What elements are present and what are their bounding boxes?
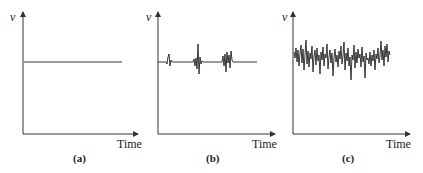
panel-b (158, 12, 275, 134)
x-axis-label-c: Time (386, 137, 411, 152)
y-axis-label-b: v (146, 10, 151, 25)
x-axis-label-a: Time (117, 137, 142, 152)
intermittent-trace (158, 44, 257, 74)
panel-a (23, 12, 138, 134)
panel-c (293, 12, 410, 134)
y-axis-label-a: v (10, 10, 15, 25)
panel-caption-a: (a) (73, 152, 86, 164)
y-axis-label-c: v (282, 10, 287, 25)
turbulent-trace (294, 40, 390, 80)
panel-caption-c: (c) (342, 152, 354, 164)
x-axis-label-b: Time (252, 137, 277, 152)
figure-canvas (0, 0, 423, 173)
panel-caption-b: (b) (206, 152, 219, 164)
